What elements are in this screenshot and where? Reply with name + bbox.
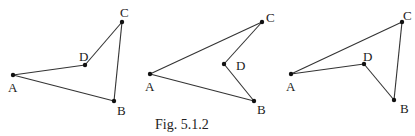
point-c bbox=[120, 20, 124, 24]
point-label-d: D bbox=[79, 49, 88, 64]
point-b bbox=[112, 99, 116, 103]
point-a bbox=[148, 72, 152, 76]
point-label-b: B bbox=[257, 102, 266, 117]
quadrilateral-2: ACDB bbox=[145, 10, 275, 117]
point-label-a: A bbox=[145, 79, 155, 94]
point-b bbox=[392, 98, 396, 102]
segment-dc bbox=[85, 22, 122, 65]
segment-bd bbox=[364, 64, 394, 100]
point-label-c: C bbox=[266, 10, 275, 25]
point-a bbox=[289, 72, 293, 76]
point-label-b: B bbox=[117, 103, 126, 118]
point-label-c: C bbox=[403, 8, 412, 23]
segment-ba bbox=[150, 74, 254, 101]
segment-cb bbox=[114, 22, 122, 101]
point-label-b: B bbox=[400, 101, 409, 116]
quadrilateral-1: ADCB bbox=[8, 5, 129, 118]
point-d bbox=[222, 62, 226, 66]
point-label-d: D bbox=[363, 49, 372, 64]
point-label-c: C bbox=[120, 5, 129, 20]
point-c bbox=[260, 20, 264, 24]
segment-ba bbox=[13, 75, 114, 101]
figure-caption: Fig. 5.1.2 bbox=[155, 117, 209, 132]
point-label-a: A bbox=[286, 79, 296, 94]
segment-ad bbox=[13, 65, 85, 75]
segment-cb bbox=[394, 22, 402, 100]
point-label-a: A bbox=[8, 80, 18, 95]
point-b bbox=[252, 99, 256, 103]
quadrilateral-3: ACDB bbox=[286, 8, 412, 116]
point-label-d: D bbox=[236, 58, 245, 73]
geometry-diagram: ADCBACDBACDB Fig. 5.1.2 bbox=[0, 0, 415, 136]
point-a bbox=[11, 73, 15, 77]
figure-canvas: ADCBACDBACDB Fig. 5.1.2 bbox=[0, 0, 415, 136]
